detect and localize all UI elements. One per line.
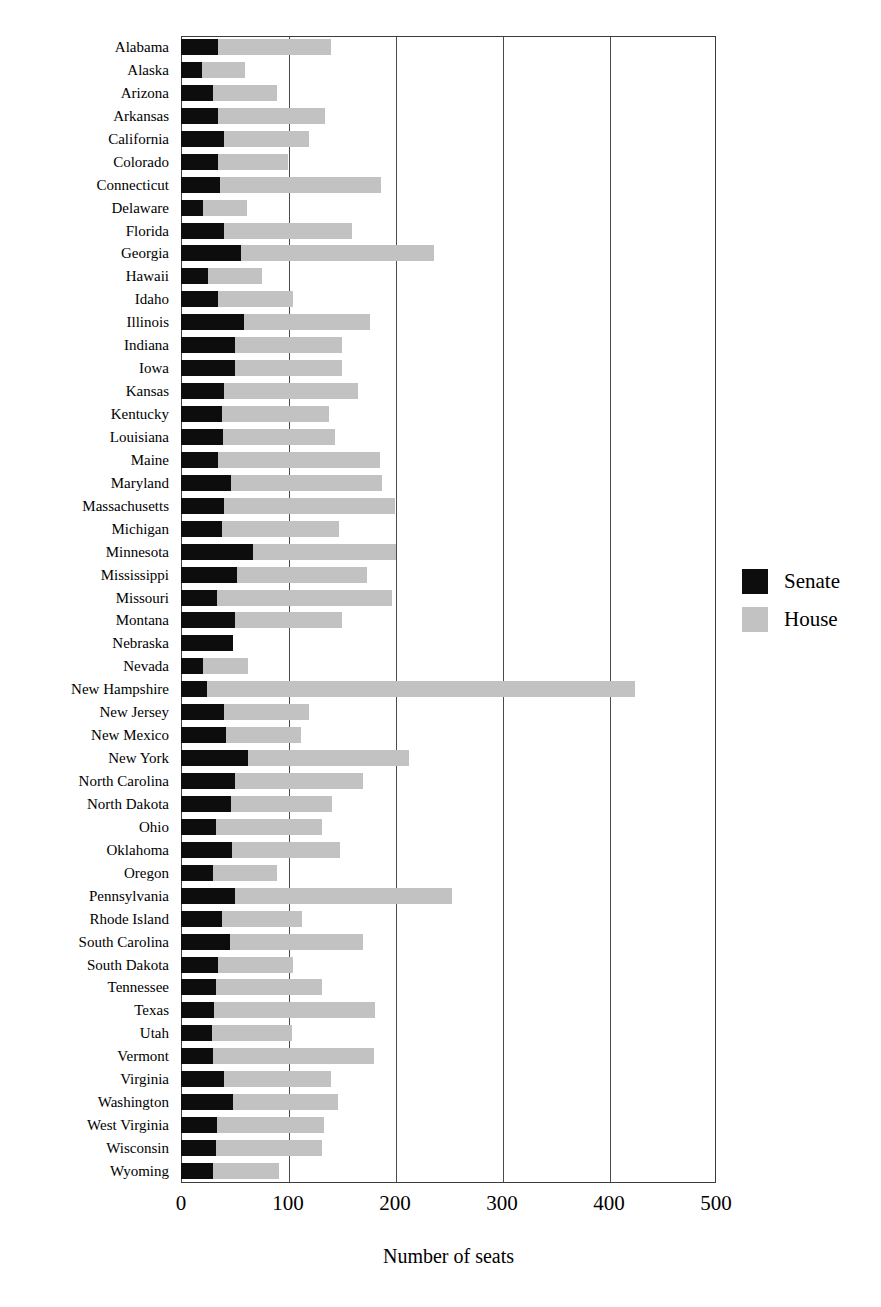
y-axis-label: Kansas <box>0 380 175 403</box>
bar-segment-senate <box>181 314 244 330</box>
bar-row <box>181 885 716 908</box>
x-tick-label: 0 <box>176 1190 187 1216</box>
bar-row <box>181 770 716 793</box>
bar-row <box>181 999 716 1022</box>
stacked-bar <box>181 406 329 422</box>
stacked-bar <box>181 452 380 468</box>
bar-segment-house <box>220 177 382 193</box>
bar-segment-house <box>244 314 370 330</box>
stacked-bar <box>181 934 363 950</box>
bar-segment-house <box>213 85 277 101</box>
y-axis-label: New Jersey <box>0 701 175 724</box>
bar-row <box>181 518 716 541</box>
stacked-bar <box>181 612 342 628</box>
bar-segment-house <box>235 337 342 353</box>
bar-row <box>181 288 716 311</box>
stacked-bar <box>181 704 309 720</box>
y-axis-label: California <box>0 128 175 151</box>
bar-segment-house <box>203 658 248 674</box>
y-axis-label: New York <box>0 747 175 770</box>
stacked-bar <box>181 635 233 651</box>
stacked-bar <box>181 888 452 904</box>
stacked-bar <box>181 750 409 766</box>
bar-row <box>181 908 716 931</box>
bar-segment-senate <box>181 268 208 284</box>
stacked-bar <box>181 429 335 445</box>
legend-item-senate: Senate <box>742 562 877 600</box>
bar-segment-senate <box>181 475 231 491</box>
y-axis-label: Nevada <box>0 655 175 678</box>
bar-row <box>181 701 716 724</box>
y-axis-label: Delaware <box>0 197 175 220</box>
bar-segment-house <box>224 131 310 147</box>
bar-segment-senate <box>181 39 218 55</box>
bar-segment-senate <box>181 108 218 124</box>
bar-segment-house <box>218 154 288 170</box>
bar-segment-senate <box>181 635 233 651</box>
y-axis-label: Nebraska <box>0 632 175 655</box>
bar-segment-house <box>241 245 434 261</box>
bar-segment-house <box>231 475 382 491</box>
bar-row <box>181 632 716 655</box>
stacked-bar <box>181 590 392 606</box>
y-axis-labels: AlabamaAlaskaArizonaArkansasCaliforniaCo… <box>0 36 175 1183</box>
bar-segment-house <box>224 1071 331 1087</box>
bar-row <box>181 82 716 105</box>
bar-segment-senate <box>181 704 224 720</box>
bar-row <box>181 724 716 747</box>
y-axis-label: Maryland <box>0 472 175 495</box>
bar-segment-house <box>224 223 352 239</box>
y-axis-label: Iowa <box>0 357 175 380</box>
stacked-bar <box>181 911 302 927</box>
y-axis-label: Indiana <box>0 334 175 357</box>
stacked-bar <box>181 681 635 697</box>
bar-segment-senate <box>181 1117 217 1133</box>
bar-segment-house <box>208 268 263 284</box>
bar-segment-house <box>235 360 342 376</box>
bar-row <box>181 265 716 288</box>
bar-segment-house <box>216 979 322 995</box>
bar-row <box>181 954 716 977</box>
bar-segment-house <box>237 567 368 583</box>
bar-row <box>181 357 716 380</box>
y-axis-label: Alaska <box>0 59 175 82</box>
stacked-bar <box>181 131 309 147</box>
stacked-bar <box>181 544 396 560</box>
bar-row <box>181 403 716 426</box>
bar-segment-senate <box>181 1002 214 1018</box>
y-axis-label: Oregon <box>0 862 175 885</box>
y-axis-label: Idaho <box>0 288 175 311</box>
bar-segment-house <box>235 888 452 904</box>
bar-segment-senate <box>181 429 223 445</box>
stacked-bar <box>181 1163 279 1179</box>
bar-segment-senate <box>181 567 237 583</box>
stacked-bar <box>181 521 339 537</box>
bar-segment-senate <box>181 154 218 170</box>
bar-row <box>181 541 716 564</box>
bar-segment-senate <box>181 842 232 858</box>
bar-segment-senate <box>181 727 226 743</box>
bar-segment-house <box>224 498 395 514</box>
y-axis-label: West Virginia <box>0 1114 175 1137</box>
y-axis-label: South Dakota <box>0 954 175 977</box>
stacked-bar <box>181 498 395 514</box>
y-axis-label: Florida <box>0 220 175 243</box>
bar-segment-senate <box>181 658 203 674</box>
bar-row <box>181 380 716 403</box>
y-axis-label: Tennessee <box>0 976 175 999</box>
bar-segment-senate <box>181 245 241 261</box>
bar-segment-senate <box>181 773 235 789</box>
y-axis-label: Mississippi <box>0 564 175 587</box>
chart-title <box>0 0 881 18</box>
bar-row <box>181 495 716 518</box>
y-axis-label: Montana <box>0 609 175 632</box>
bar-segment-house <box>213 865 277 881</box>
bar-segment-house <box>248 750 409 766</box>
bar-segment-senate <box>181 1071 224 1087</box>
stacked-bar <box>181 200 247 216</box>
bar-segment-house <box>222 406 329 422</box>
y-axis-label: Vermont <box>0 1045 175 1068</box>
bar-row <box>181 472 716 495</box>
y-axis-label: North Dakota <box>0 793 175 816</box>
stacked-bar <box>181 658 248 674</box>
